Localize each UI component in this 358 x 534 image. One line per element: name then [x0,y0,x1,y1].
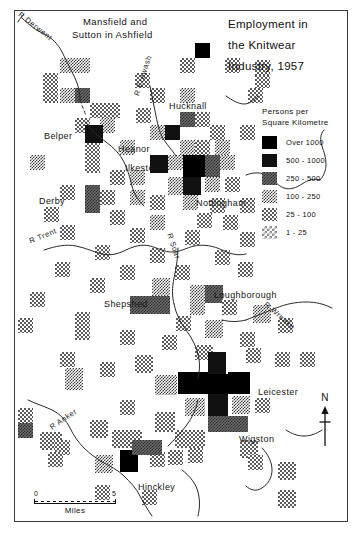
grid-cell [120,330,135,345]
grid-cell [110,210,125,225]
grid-cell [65,368,83,390]
legend-class-list: Over 1000500 - 1000250 - 500100 - 25025 … [262,135,354,240]
legend-label: 25 - 100 [286,210,316,219]
legend-swatch [262,136,277,149]
grid-cell [168,177,183,195]
north-label: N [312,392,338,403]
grid-cell [222,300,237,315]
legend-swatch [262,154,277,167]
place-label-sutton-in-ashfield: Sutton in Ashfield [72,28,153,41]
grid-cell [110,170,125,185]
grid-cell [90,103,120,118]
grid-cell [238,262,253,277]
grid-cell [60,225,75,240]
grid-cell [165,125,180,140]
grid-cell [240,232,255,247]
grid-cell [180,112,195,127]
grid-cell [18,318,33,333]
grid-cell [95,455,113,473]
grid-cell [135,355,153,373]
map-figure: Employment in the Knitwear Industry, 195… [0,0,358,534]
grid-cell [48,452,63,467]
grid-cell [43,73,58,103]
place-label-wigston: Wigston [239,434,274,444]
grid-cell [75,312,90,340]
grid-cell [95,245,110,260]
grid-cell [75,88,90,103]
legend-label: 250 - 500 [286,174,320,183]
grid-cell [208,352,226,374]
place-label-derby: Derby [39,196,65,206]
grid-cell [120,265,135,280]
grid-cell [223,215,238,230]
grid-cell [205,320,223,338]
legend-label: 100 - 250 [286,192,320,201]
legend-row: 250 - 500 [262,171,354,186]
grid-cell [60,88,75,103]
grid-cell [150,88,165,103]
scale-end-value: 5 [112,490,116,497]
grid-cell [130,190,145,205]
grid-cell [44,207,59,222]
grid-cell [232,396,250,414]
place-label-nottingham: Nottingham [196,198,246,208]
grid-cell [148,296,170,314]
grid-cell [205,177,220,192]
grid-cell [278,462,296,480]
legend-row: 500 - 1000 [262,153,354,168]
grid-cell [210,125,225,140]
grid-cell [60,58,90,73]
legend-row: 100 - 250 [262,189,354,204]
grid-cell [275,352,290,367]
grid-cell [90,278,105,293]
grid-cell [168,450,183,465]
place-label-shepshed: Shepshed [104,299,148,309]
legend-label: Over 1000 [286,138,324,147]
grid-cell [55,262,70,277]
grid-cell [18,408,33,423]
grid-cell [120,400,135,415]
grid-cell [190,300,205,315]
grid-cell [190,285,205,300]
grid-cell [175,265,190,280]
grid-cell [150,215,165,230]
legend: Persons per Square Kilometre Over 100050… [262,106,354,243]
legend-heading: Persons per Square Kilometre [262,106,354,128]
legend-swatch [262,208,277,221]
grid-cell [85,143,100,173]
scale-endpoints: 0 5 [34,490,116,499]
legend-swatch [262,172,277,185]
grid-cell [162,335,177,350]
grid-cell [188,448,203,463]
grid-cell [300,352,315,367]
title-line-3: Industry, 1957 [228,56,350,77]
legend-row: 1 - 25 [262,225,354,240]
grid-cell [176,316,191,331]
grid-cell [30,155,45,170]
place-label-hinckley: Hinckley [138,482,175,492]
grid-cell [100,190,115,205]
grid-cell [195,43,210,58]
legend-row: 25 - 100 [262,207,354,222]
grid-cell [208,394,228,416]
legend-label: 500 - 1000 [286,156,325,165]
grid-cell [155,412,175,432]
grid-cell [255,398,270,413]
legend-swatch [262,190,277,203]
place-label-heanor: Heanor [118,144,150,154]
grid-cell [60,352,75,367]
grid-cell [168,155,183,170]
grid-cell [132,440,162,455]
grid-cell [150,248,165,263]
grid-cell [130,228,145,243]
grid-cell [215,250,230,265]
grid-cell [248,88,263,103]
legend-heading-line-1: Persons per [262,106,354,117]
north-arrow-icon [316,404,334,448]
grid-cell [240,332,255,347]
legend-heading-line-2: Square Kilometre [262,117,354,128]
grid-cell [152,278,170,296]
place-label-belper: Belper [44,131,72,141]
grid-cell [195,140,210,155]
grid-cell [180,58,195,73]
